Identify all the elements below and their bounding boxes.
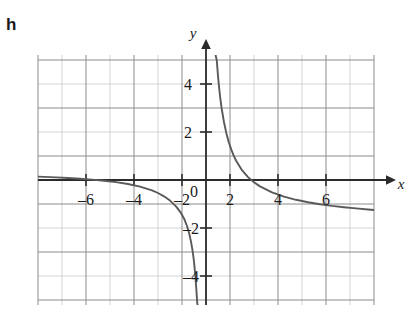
x-tick-label-6: 6 [322, 191, 330, 208]
y-tick-label-4: 4 [184, 76, 192, 93]
origin-tick-label: 0 [190, 183, 198, 200]
coordinate-plane-svg: y x 0 –6 –4 –2 2 4 6 4 2 –2 –4 [0, 0, 417, 328]
graph-figure: h [0, 0, 417, 328]
x-tick-label-neg2: –2 [173, 191, 190, 208]
y-axis-arrow-icon [201, 39, 211, 49]
y-tick-label-neg2: –2 [182, 220, 199, 237]
x-tick-label-neg6: –6 [77, 191, 94, 208]
y-axis-label: y [188, 25, 197, 41]
x-tick-label-4: 4 [274, 191, 282, 208]
y-tick-label-neg4: –4 [182, 268, 199, 285]
x-axis-arrow-icon [386, 175, 396, 185]
x-tick-label-neg4: –4 [125, 191, 142, 208]
x-axis-label: x [397, 176, 405, 192]
y-tick-label-2: 2 [184, 124, 192, 141]
part-label: h [6, 16, 16, 33]
x-tick-label-2: 2 [226, 191, 234, 208]
